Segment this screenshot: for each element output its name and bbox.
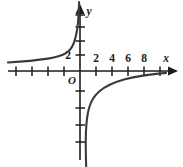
x-tick-label-6: 6 — [125, 52, 131, 64]
hyperbola-right-branch — [86, 73, 166, 167]
origin-label: O — [68, 74, 76, 86]
x-tick-label-8: 8 — [141, 52, 147, 64]
x-tick-label-4: 4 — [109, 52, 115, 64]
graph-canvas: 2 4 6 8 x 2 y O — [0, 0, 183, 167]
hyperbola-figure: 2 4 6 8 x 2 y O — [0, 0, 183, 167]
x-axis-group: 2 4 6 8 x — [8, 52, 178, 76]
y-axis-label: y — [84, 5, 92, 18]
x-axis-arrowhead — [168, 67, 178, 76]
x-axis-label: x — [162, 52, 169, 64]
x-tick-label-2: 2 — [93, 52, 99, 64]
